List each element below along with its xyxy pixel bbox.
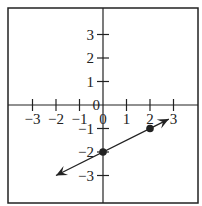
x-tick-label: 1	[123, 111, 131, 127]
coordinate-plane: −3−2−10123 3210−1−2−3	[0, 0, 202, 206]
y-tick-label: −3	[78, 168, 94, 184]
x-tick-label: −3	[25, 111, 41, 127]
x-tick-label: 0	[99, 111, 107, 127]
y-tick-label: −1	[78, 121, 94, 137]
y-tick-label: 2	[87, 50, 95, 66]
x-tick-label: 2	[146, 111, 154, 127]
y-tick-label: 0	[93, 97, 101, 113]
data-point	[146, 125, 154, 133]
y-tick-label: 1	[87, 74, 95, 90]
y-tick-label: 3	[87, 27, 95, 43]
data-point	[99, 148, 107, 156]
x-tick-label: −2	[48, 111, 64, 127]
x-tick-label: 3	[170, 111, 178, 127]
